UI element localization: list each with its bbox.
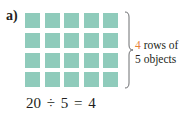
grid-cell bbox=[45, 13, 60, 28]
grid-cell bbox=[64, 53, 79, 68]
grid-cell bbox=[64, 13, 79, 28]
rows-annotation: 4 rows of 5 objects bbox=[135, 38, 178, 66]
figure-label: a) bbox=[6, 9, 18, 23]
grid-cell bbox=[25, 33, 40, 48]
grid-cell bbox=[84, 53, 99, 68]
grid-cell bbox=[25, 13, 40, 28]
grid-cell bbox=[25, 53, 40, 68]
grid-cell bbox=[103, 53, 118, 68]
grid-cell bbox=[103, 13, 118, 28]
grid-cell bbox=[84, 13, 99, 28]
grid-cell bbox=[45, 72, 60, 87]
grid-cell bbox=[103, 72, 118, 87]
curly-brace-icon bbox=[124, 11, 134, 89]
grid-cell bbox=[103, 33, 118, 48]
grid-cell bbox=[84, 33, 99, 48]
division-equation: 20 ÷ 5 = 4 bbox=[26, 95, 96, 111]
annotation-line-2: 5 objects bbox=[135, 52, 178, 66]
grid-cell bbox=[45, 33, 60, 48]
grid-cell bbox=[64, 33, 79, 48]
object-grid bbox=[25, 13, 118, 87]
grid-cell bbox=[84, 72, 99, 87]
annotation-line-1: 4 rows of bbox=[135, 38, 178, 52]
grid-cell bbox=[64, 72, 79, 87]
grid-cell bbox=[25, 72, 40, 87]
grid-cell bbox=[45, 53, 60, 68]
rows-text: rows of bbox=[141, 39, 179, 51]
